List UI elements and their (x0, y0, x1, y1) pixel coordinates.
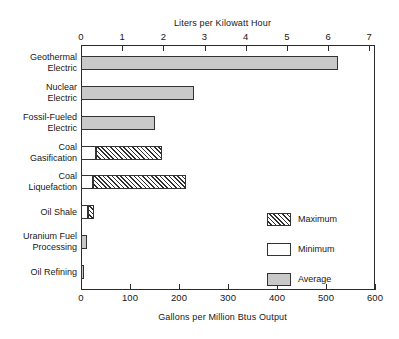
category-label: Oil Refining (30, 267, 77, 278)
category-label: Coal Gasification (30, 142, 77, 164)
category-label: Geothermal Electric (30, 52, 77, 74)
category-label: Nuclear Electric (46, 82, 77, 104)
top-tick-mark (205, 45, 206, 51)
top-tick-mark (122, 45, 123, 51)
bottom-tick-mark (375, 284, 376, 290)
bar-average (81, 116, 155, 130)
bottom-tick-label: 300 (220, 292, 236, 303)
top-tick-mark (163, 45, 164, 51)
category-label: Oil Shale (40, 207, 77, 218)
bottom-tick-mark (179, 284, 180, 290)
top-axis-title: Liters per Kilowatt Hour (0, 18, 399, 28)
top-tick-mark (369, 45, 370, 51)
legend-label: Maximum (298, 214, 337, 224)
bar-average (81, 235, 87, 249)
bottom-tick-label: 200 (171, 292, 187, 303)
legend-swatch-solid-gray (267, 273, 291, 286)
category-label: Uranium Fuel Processing (23, 231, 77, 253)
bottom-tick-label: 600 (367, 292, 383, 303)
bottom-tick-label: 400 (269, 292, 285, 303)
bar-maximum (96, 146, 162, 160)
top-tick-mark (81, 45, 82, 51)
category-label: Coal Liquefaction (28, 171, 77, 193)
top-tick-label: 4 (243, 31, 248, 42)
bar-average (81, 86, 194, 100)
bottom-tick-mark (228, 284, 229, 290)
bottom-tick-mark (130, 284, 131, 290)
top-tick-label: 3 (202, 31, 207, 42)
top-tick-label: 6 (325, 31, 330, 42)
top-tick-label: 7 (367, 31, 372, 42)
bar-average (81, 265, 84, 279)
bar-minimum (81, 175, 93, 189)
top-tick-mark (246, 45, 247, 51)
bar-chart: Liters per Kilowatt Hour 012345670100200… (0, 0, 399, 339)
bottom-tick-label: 100 (122, 292, 138, 303)
top-tick-label: 0 (78, 31, 83, 42)
top-tick-mark (328, 45, 329, 51)
legend-label: Minimum (298, 244, 335, 254)
top-tick-mark (287, 45, 288, 51)
legend-label: Average (298, 274, 331, 284)
bar-minimum (81, 146, 96, 160)
bar-maximum (93, 175, 186, 189)
bar-maximum (88, 205, 94, 219)
legend-item: Minimum (267, 241, 335, 257)
bar-average (81, 56, 338, 70)
top-tick-label: 1 (120, 31, 125, 42)
bottom-tick-label: 0 (78, 292, 83, 303)
legend-swatch-diagonal-hatch (267, 213, 291, 226)
top-tick-label: 2 (161, 31, 166, 42)
legend-swatch-dots (267, 243, 291, 256)
bottom-tick-mark (81, 284, 82, 290)
bar-minimum (81, 205, 88, 219)
legend-item: Maximum (267, 211, 337, 227)
bottom-tick-label: 500 (318, 292, 334, 303)
legend-item: Average (267, 271, 331, 287)
category-label: Fossil-Fueled Electric (23, 112, 77, 134)
bottom-axis-title: Gallons per Million Btus Output (0, 312, 399, 322)
top-tick-label: 5 (284, 31, 289, 42)
